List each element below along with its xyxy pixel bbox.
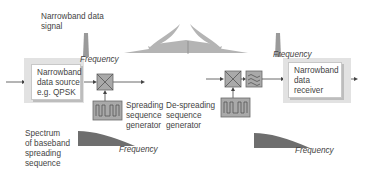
mixer-right-icon bbox=[225, 71, 241, 87]
spreading-generator-icon bbox=[93, 101, 122, 120]
spectrum-baseband-label: Spectrum of baseband spreading sequence bbox=[25, 129, 70, 169]
narrowband-spike-left-icon bbox=[83, 33, 89, 57]
mixer-left-icon bbox=[97, 74, 113, 90]
narrowband-signal-label: Narrowband data signal bbox=[41, 12, 104, 32]
frequency-label-top-left: Frequency bbox=[80, 55, 119, 64]
spread-spectrum-diagram: Narrowband data source e.g. QPSK Narrowb… bbox=[0, 0, 370, 173]
receiver-label: Narrowband data receiver bbox=[294, 66, 339, 95]
frequency-label-bottom-right: Frequency bbox=[295, 146, 334, 155]
frequency-label-top-right: Frequency bbox=[273, 50, 312, 59]
despreading-generator-label: De-spreading sequence generator bbox=[166, 101, 215, 131]
source-label: Narrowband data source e.g. QPSK bbox=[37, 68, 82, 97]
spectrum-left-icon bbox=[78, 131, 135, 146]
frequency-label-bottom-left: Frequency bbox=[119, 145, 158, 154]
source-box: Narrowband data source e.g. QPSK bbox=[31, 64, 81, 100]
spread-spectrum-wave-icon bbox=[124, 24, 248, 53]
despreading-generator-icon bbox=[221, 98, 250, 117]
spreading-generator-label: Spreading sequence generator bbox=[126, 101, 163, 131]
receiver-box: Narrowband data receiver bbox=[288, 62, 342, 98]
bandpass-filter-icon bbox=[246, 71, 262, 87]
